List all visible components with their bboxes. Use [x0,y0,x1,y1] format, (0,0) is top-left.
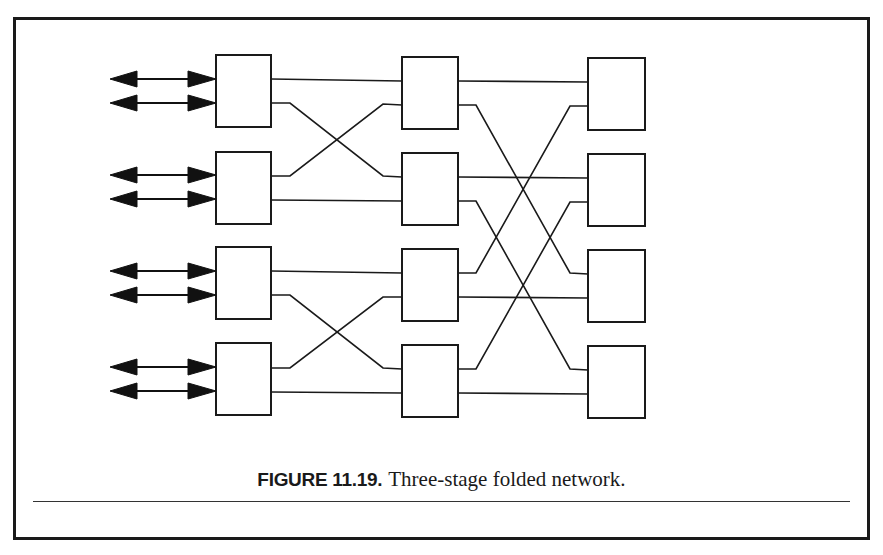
links-stage2-to-stage3 [458,81,588,394]
figure-caption: FIGURE 11.19.Three-stage folded network. [0,467,883,492]
figure-caption-text: Three-stage folded network. [388,467,625,491]
stage3-switch-4 [588,346,645,418]
double-arrow-icon [110,383,216,399]
stage2-switch-4 [402,345,458,417]
stage2-switch-3 [402,249,458,321]
stage2-switch-1 [402,57,458,129]
stage1-switch-3 [216,247,271,319]
double-arrow-icon [110,287,216,303]
stage3-switch-1 [588,58,645,130]
figure-label: FIGURE 11.19. [257,469,382,490]
double-arrow-icon [110,167,216,183]
stage1-switch-4 [216,343,271,415]
stage1-switch-2 [216,152,271,224]
stage3-switch-2 [588,154,645,226]
bidirectional-port-arrows [110,71,216,399]
caption-rule-divider [33,501,850,502]
stage1-switch-1 [216,55,271,127]
double-arrow-icon [110,191,216,207]
links-stage1-to-stage2 [271,79,402,393]
double-arrow-icon [110,95,216,111]
double-arrow-icon [110,71,216,87]
stage2-switch-2 [402,153,458,225]
double-arrow-icon [110,263,216,279]
stage3-switch-3 [588,250,645,322]
double-arrow-icon [110,359,216,375]
